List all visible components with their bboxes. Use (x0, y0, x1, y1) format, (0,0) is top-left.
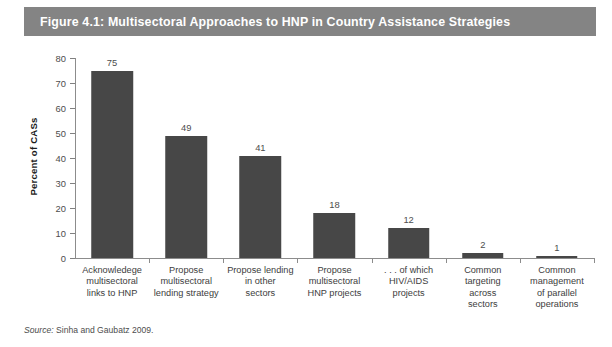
bar-value-label: 1 (554, 242, 559, 253)
bar-group: 18 (297, 58, 371, 258)
x-label-line: of parallel (520, 288, 594, 299)
x-axis-line (75, 258, 594, 259)
y-tick-label: 20 (56, 203, 66, 214)
x-label-line: projects (372, 288, 446, 299)
bar-group: 41 (223, 58, 297, 258)
y-axis-tick-labels: 01020304050607080 (44, 36, 70, 321)
bar-group: 49 (149, 58, 223, 258)
x-tick-mark (149, 258, 150, 263)
x-tick-mark (372, 258, 373, 263)
bar (536, 256, 578, 259)
bar-value-label: 18 (329, 199, 339, 210)
x-label-line: management (520, 276, 594, 287)
x-label-line: . . . of which (372, 265, 446, 276)
y-tick-label: 50 (56, 128, 66, 139)
x-category-label: Acknowledegemultisectorallinks to HNP (75, 265, 149, 299)
bar-group: 2 (446, 58, 520, 258)
bar-group: 12 (372, 58, 446, 258)
x-label-line: targeting (446, 276, 520, 287)
x-label-line: Common (520, 265, 594, 276)
x-label-line: HNP projects (297, 288, 371, 299)
x-category-label: Commonmanagementof paralleloperations (520, 265, 594, 311)
bar (462, 253, 504, 258)
x-tick-mark (594, 258, 595, 263)
x-label-line: operations (520, 299, 594, 310)
y-tick-label: 80 (56, 53, 66, 64)
bar-value-label: 12 (403, 214, 413, 225)
x-label-line: Propose (149, 265, 223, 276)
x-category-label: Commontargetingacrosssectors (446, 265, 520, 311)
x-category-label: Propose lendingin othersectors (223, 265, 297, 299)
bar-value-label: 75 (107, 57, 117, 68)
x-category-label: Proposemultisectorallending strategy (149, 265, 223, 299)
x-label-line: links to HNP (75, 288, 149, 299)
y-tick-label: 10 (56, 228, 66, 239)
x-label-line: lending strategy (149, 288, 223, 299)
figure-title: Figure 4.1: Multisectoral Approaches to … (24, 15, 510, 29)
x-label-line: Propose (297, 265, 371, 276)
x-label-line: sectors (446, 299, 520, 310)
x-tick-mark (223, 258, 224, 263)
bar-chart: Percent of CASs 01020304050607080 754941… (0, 36, 612, 321)
y-tick-label: 30 (56, 178, 66, 189)
bar (240, 156, 282, 259)
x-tick-mark (446, 258, 447, 263)
y-axis-title-text: Percent of CASs (28, 117, 39, 195)
x-label-line: multisectoral (149, 276, 223, 287)
x-label-line: Propose lending (223, 265, 297, 276)
figure-title-banner: Figure 4.1: Multisectoral Approaches to … (24, 7, 596, 36)
y-tick-label: 70 (56, 78, 66, 89)
x-label-line: HIV/AIDS (372, 276, 446, 287)
x-label-line: sectors (223, 288, 297, 299)
bar-group: 1 (520, 58, 594, 258)
x-label-line: multisectoral (297, 276, 371, 287)
bar (91, 71, 133, 259)
bar-value-label: 2 (480, 239, 485, 250)
bar-value-label: 41 (255, 142, 265, 153)
x-category-label: . . . of whichHIV/AIDSprojects (372, 265, 446, 299)
y-tick-label: 60 (56, 103, 66, 114)
source-text: Sinha and Gaubatz 2009. (56, 325, 153, 335)
x-label-line: Common (446, 265, 520, 276)
source-label: Source: (24, 325, 54, 335)
plot-area: 754941181221 (75, 58, 594, 258)
x-axis-category-labels: Acknowledegemultisectorallinks to HNPPro… (75, 265, 594, 321)
source-note: Source: Sinha and Gaubatz 2009. (24, 325, 154, 335)
x-category-label: ProposemultisectoralHNP projects (297, 265, 371, 299)
y-tick-label: 40 (56, 153, 66, 164)
bar (314, 213, 356, 258)
x-label-line: across (446, 288, 520, 299)
x-tick-mark (297, 258, 298, 263)
x-tick-mark (520, 258, 521, 263)
x-label-line: multisectoral (75, 276, 149, 287)
bar (388, 228, 430, 258)
y-tick-label: 0 (61, 253, 66, 264)
bar-group: 75 (75, 58, 149, 258)
y-axis-title: Percent of CASs (24, 96, 42, 216)
bar-value-label: 49 (181, 122, 191, 133)
x-label-line: Acknowledege (75, 265, 149, 276)
bar (165, 136, 207, 259)
x-label-line: in other (223, 276, 297, 287)
